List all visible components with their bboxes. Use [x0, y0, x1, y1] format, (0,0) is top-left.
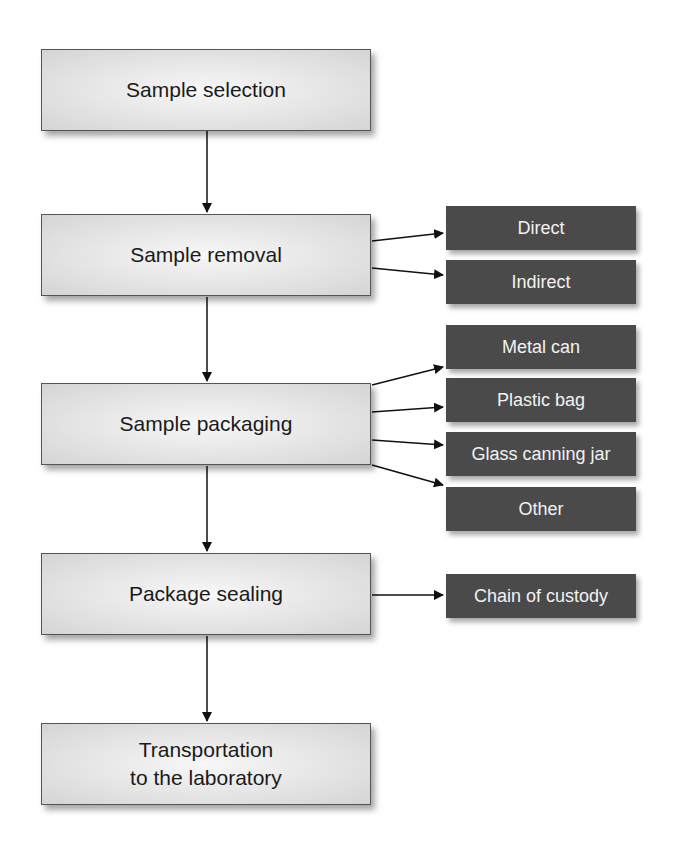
step-label: Sample packaging — [120, 410, 293, 438]
option-indirect: Indirect — [446, 260, 636, 304]
step-label: Package sealing — [129, 580, 283, 608]
option-direct: Direct — [446, 206, 636, 250]
step-sample-removal: Sample removal — [41, 214, 371, 296]
option-label: Glass canning jar — [471, 444, 610, 465]
step-sample-selection: Sample selection — [41, 49, 371, 131]
option-label: Plastic bag — [497, 390, 585, 411]
option-label: Metal can — [502, 337, 580, 358]
step-label: Transportation to the laboratory — [130, 736, 282, 792]
option-metal-can: Metal can — [446, 325, 636, 369]
step-label: Sample removal — [130, 241, 282, 269]
step-transportation: Transportation to the laboratory — [41, 723, 371, 805]
flowchart: Sample selection Sample removal Sample p… — [0, 0, 680, 850]
option-label: Indirect — [511, 272, 570, 293]
option-label: Other — [518, 499, 563, 520]
step-label: Sample selection — [126, 76, 286, 104]
step-sample-packaging: Sample packaging — [41, 383, 371, 465]
option-plastic-bag: Plastic bag — [446, 378, 636, 422]
option-label: Chain of custody — [474, 586, 608, 607]
option-glass-canning-jar: Glass canning jar — [446, 432, 636, 476]
step-package-sealing: Package sealing — [41, 553, 371, 635]
option-label: Direct — [517, 218, 564, 239]
option-chain-of-custody: Chain of custody — [446, 574, 636, 618]
option-other: Other — [446, 487, 636, 531]
